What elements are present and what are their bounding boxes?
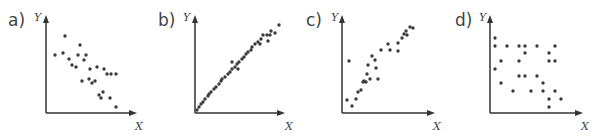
data-point [553, 44, 556, 47]
x-axis-arrow-icon [575, 110, 583, 116]
data-point [541, 81, 544, 84]
data-point [547, 51, 550, 54]
data-point [517, 59, 520, 62]
data-point [493, 44, 496, 47]
x-axis-label-d: X [581, 120, 589, 133]
y-axis-label-d: Y [479, 11, 486, 24]
data-point [547, 105, 550, 108]
data-point [547, 97, 550, 100]
data-point [553, 89, 556, 92]
data-point [517, 44, 520, 47]
data-point [493, 67, 496, 70]
data-point [529, 89, 532, 92]
data-point [493, 36, 496, 39]
data-point [523, 51, 526, 54]
data-point [499, 81, 502, 84]
data-point [535, 74, 538, 77]
data-point [523, 44, 526, 47]
data-point [523, 74, 526, 77]
data-point [511, 89, 514, 92]
panel-d: d) Y X [0, 0, 598, 137]
data-point [547, 59, 550, 62]
panel-label-d: d) [455, 10, 472, 30]
y-axis-arrow-icon [487, 15, 493, 23]
data-point [499, 59, 502, 62]
data-point [535, 44, 538, 47]
data-point [517, 74, 520, 77]
scatter-plot-d [0, 0, 598, 137]
data-point [541, 89, 544, 92]
data-point [553, 59, 556, 62]
data-point [505, 44, 508, 47]
data-point [559, 97, 562, 100]
